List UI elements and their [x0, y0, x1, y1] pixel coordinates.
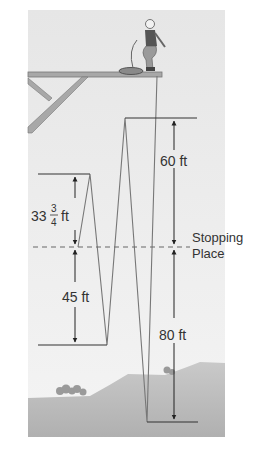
- svg-text:ft: ft: [61, 208, 69, 224]
- label-stopping: Stopping: [192, 230, 243, 245]
- bungee-diagram: 60 ft 80 ft 45 ft 33 3 4 ft Stopping Pla…: [0, 0, 256, 461]
- label-45-ft: 45 ft: [62, 289, 89, 305]
- svg-text:33: 33: [31, 208, 47, 224]
- svg-text:4: 4: [51, 217, 57, 228]
- svg-text:3: 3: [51, 203, 57, 214]
- label-80-ft: 80 ft: [159, 327, 186, 343]
- label-60-ft: 60 ft: [160, 153, 187, 169]
- label-place: Place: [192, 246, 225, 261]
